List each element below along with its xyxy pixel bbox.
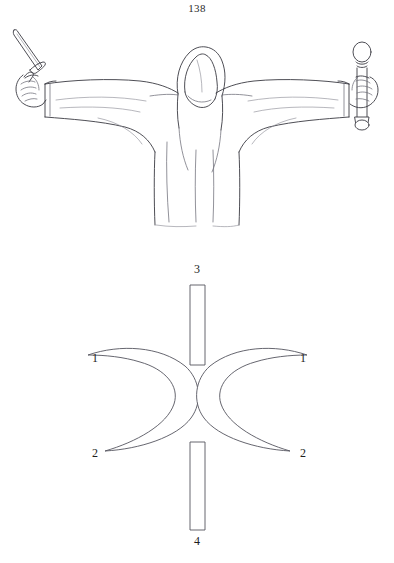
crescent-and-bar-symbol	[0, 252, 394, 557]
dagger-icon	[13, 30, 45, 82]
shoulder-line	[150, 94, 252, 96]
right-sleeve	[216, 80, 349, 152]
robe-body	[154, 128, 240, 227]
upper-vertical-bar	[190, 285, 205, 365]
left-crescent	[88, 348, 198, 451]
callout-right-2: 2	[300, 447, 306, 459]
callout-left-2: 2	[92, 447, 98, 459]
robed-figure-illustration	[0, 22, 394, 247]
callout-left-1: 1	[92, 352, 98, 364]
page-canvas: 138	[0, 0, 394, 563]
lower-vertical-bar	[190, 442, 205, 530]
left-sleeve	[45, 80, 178, 152]
folio-page-number: 138	[0, 2, 394, 14]
callout-top-3: 3	[0, 263, 394, 275]
right-crescent	[197, 348, 307, 451]
shadowed-face	[185, 54, 218, 108]
right-hand	[350, 76, 378, 108]
callout-right-1: 1	[300, 352, 306, 364]
callout-bottom-4: 4	[0, 535, 394, 547]
